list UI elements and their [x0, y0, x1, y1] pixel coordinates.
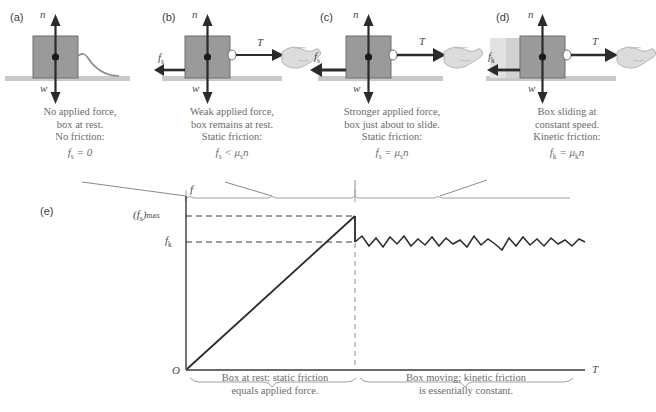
- hand-icon: [617, 47, 656, 68]
- panel-a-caption-line3: No friction:: [0, 131, 160, 144]
- weight-arrowhead: [538, 92, 548, 104]
- weight-arrowhead: [51, 92, 61, 104]
- panel-c-caption: Stronger applied force, box just about t…: [308, 106, 476, 144]
- rope-eyelet: [228, 50, 236, 60]
- weight-arrowhead: [364, 92, 374, 104]
- brace-caption-right: Box moving; kinetic friction is essentia…: [376, 372, 556, 397]
- panel-d: (d) n w T fk Box sliding at consta: [478, 0, 656, 180]
- panel-a-formula: fs = 0: [0, 146, 160, 161]
- panel-b: (b) n w T fs Weak applied force, box rem…: [152, 0, 312, 180]
- leader-line-d: [440, 180, 487, 196]
- kinetic-friction-tick-label: fk: [165, 234, 172, 249]
- panel-c-caption-line1: Stronger applied force,: [308, 106, 476, 119]
- weight-label-c: w: [353, 82, 360, 94]
- brace-caption-right-line2: is essentially constant.: [376, 385, 556, 398]
- panel-a-diagram: [0, 8, 160, 108]
- y-axis-label: f: [190, 183, 193, 195]
- panel-d-caption-line2: constant speed.: [478, 119, 656, 132]
- normal-force-arrowhead: [364, 14, 374, 26]
- panel-b-caption-line2: box remains at rest.: [152, 119, 312, 132]
- top-brace-left: [186, 197, 276, 199]
- brace-caption-right-line1: Box moving; kinetic friction: [376, 372, 556, 385]
- normal-force-label-b: n: [192, 8, 198, 20]
- panel-b-formula: fs < μsn: [152, 146, 312, 161]
- panel-a-caption-line2: box at rest.: [0, 119, 160, 132]
- tension-arrowhead: [605, 48, 618, 62]
- kinetic-friction-line: [355, 236, 585, 250]
- friction-label-d: fk: [488, 50, 495, 65]
- panel-d-caption-line3: Kinetic friction:: [478, 131, 656, 144]
- leader-line-a: [82, 182, 186, 196]
- center-of-mass-dot: [365, 53, 372, 60]
- normal-force-label-c: n: [353, 8, 359, 20]
- tension-label-c: T: [419, 35, 425, 47]
- panel-c-caption-line2: box just about to slide.: [308, 119, 476, 132]
- panel-b-caption-line1: Weak applied force,: [152, 106, 312, 119]
- panel-d-caption: Box sliding at constant speed. Kinetic f…: [478, 106, 656, 144]
- normal-force-arrowhead: [538, 14, 548, 26]
- panel-c-diagram: [308, 8, 476, 108]
- max-static-friction-tick-label: (fs)max: [133, 208, 160, 223]
- panel-c-formula: fs = μsn: [308, 146, 476, 161]
- center-of-mass-dot: [52, 53, 59, 60]
- weight-label-a: w: [40, 82, 47, 94]
- panel-b-caption-line3: Static friction:: [152, 131, 312, 144]
- weight-label-d: w: [528, 82, 535, 94]
- brace-caption-left-line1: Box at rest; static friction: [190, 372, 360, 385]
- panel-a-caption: No applied force, box at rest. No fricti…: [0, 106, 160, 144]
- center-of-mass-dot: [539, 53, 546, 60]
- normal-force-label-a: n: [40, 8, 46, 20]
- rope-eyelet: [389, 50, 397, 60]
- panel-b-diagram: [152, 8, 312, 108]
- leader-line-b: [225, 182, 272, 196]
- panel-d-caption-line1: Box sliding at: [478, 106, 656, 119]
- tension-label-d: T: [592, 35, 598, 47]
- panel-d-formula: fk = μkn: [478, 146, 656, 161]
- static-friction-line: [187, 216, 355, 369]
- brace-caption-left-line2: equals applied force.: [190, 385, 360, 398]
- x-axis-label: T: [592, 363, 598, 375]
- weight-arrowhead: [203, 92, 213, 104]
- rope-eyelet: [563, 50, 571, 60]
- weight-label-b: w: [192, 82, 199, 94]
- panel-d-diagram: [478, 8, 656, 108]
- center-of-mass-dot: [204, 53, 211, 60]
- friction-figure: (a) n w No applied force, box at rest. N…: [0, 0, 656, 412]
- brace-caption-left: Box at rest; static friction equals appl…: [190, 372, 360, 397]
- normal-force-arrowhead: [203, 14, 213, 26]
- panel-c: (c) n w T fs Stronger applied force, box…: [308, 0, 476, 180]
- top-brace-right: [276, 197, 570, 199]
- panel-a: (a) n w No applied force, box at rest. N…: [0, 0, 160, 180]
- panel-b-caption: Weak applied force, box remains at rest.…: [152, 106, 312, 144]
- normal-force-label-d: n: [528, 8, 534, 20]
- friction-label-b: fs: [158, 51, 164, 66]
- friction-label-c: fs: [314, 50, 320, 65]
- tension-label-b: T: [257, 36, 263, 48]
- normal-force-arrowhead: [51, 14, 61, 26]
- slack-rope: [78, 54, 119, 76]
- panel-c-caption-line3: Static friction:: [308, 131, 476, 144]
- panel-a-caption-line1: No applied force,: [0, 106, 160, 119]
- hand-icon: [444, 47, 483, 68]
- origin-label: O: [172, 364, 180, 376]
